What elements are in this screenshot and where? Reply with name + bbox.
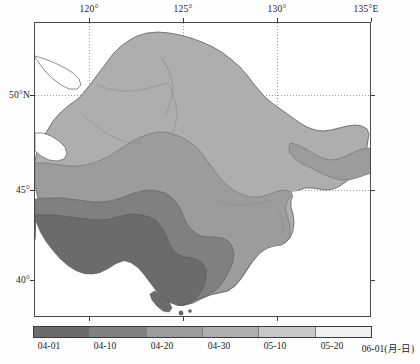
colorbar[interactable] xyxy=(33,326,372,338)
contour-map-graphic xyxy=(35,23,371,317)
lon-label-130: 130° xyxy=(268,4,287,14)
colorbar-segment-6[interactable] xyxy=(315,327,371,337)
coastal-island-2 xyxy=(188,309,191,312)
colorbar-tick-0510: 05-10 xyxy=(264,341,287,351)
lon-label-135: 135°E xyxy=(354,4,379,14)
colorbar-segment-3[interactable] xyxy=(146,327,202,337)
lat-label-40: 40° xyxy=(4,275,30,285)
map-plot-area xyxy=(34,22,371,317)
lat-tick-right-50 xyxy=(371,95,375,96)
colorbar-segment-1[interactable] xyxy=(34,327,89,337)
colorbar-segment-2[interactable] xyxy=(89,327,145,337)
lat-label-45: 45° xyxy=(4,185,30,195)
lon-label-125: 125° xyxy=(174,4,193,14)
colorbar-tick-0420: 04-20 xyxy=(151,341,174,351)
lon-tick-bottom-125 xyxy=(183,317,184,321)
colorbar-tick-0430: 04-30 xyxy=(208,341,231,351)
colorbar-tick-0601-unit: 06-01(月-日) xyxy=(362,341,415,355)
figure-root: 120° 125° 130° 135°E 50°N 45° 40° xyxy=(0,0,420,364)
lon-tick-bottom-130 xyxy=(277,317,278,321)
lat-tick-right-40 xyxy=(371,280,375,281)
lon-tick-135 xyxy=(371,18,372,22)
colorbar-tick-labels: 04-01 04-10 04-20 04-30 05-10 05-20 06-0… xyxy=(0,341,420,357)
lat-label-50: 50°N xyxy=(4,90,30,100)
colorbar-segment-5[interactable] xyxy=(258,327,314,337)
lat-tick-right-45 xyxy=(371,190,375,191)
coastal-island-1 xyxy=(179,311,183,315)
lon-tick-bottom-120 xyxy=(89,317,90,321)
map-figure: 120° 125° 130° 135°E 50°N 45° 40° xyxy=(0,0,420,320)
colorbar-segment-4[interactable] xyxy=(202,327,258,337)
colorbar-tick-0401: 04-01 xyxy=(38,341,61,351)
sea-pocket-northwest xyxy=(35,56,81,89)
colorbar-tick-0520: 05-20 xyxy=(321,341,344,351)
colorbar-tick-0410: 04-10 xyxy=(94,341,117,351)
lon-label-120: 120° xyxy=(80,4,99,14)
